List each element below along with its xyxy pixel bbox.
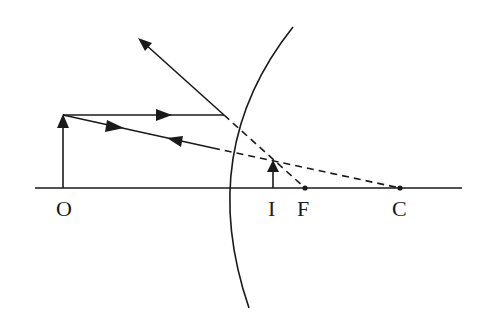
ray-direction-arrow-icon <box>105 120 124 132</box>
label-image: I <box>268 198 275 220</box>
diagram-canvas <box>0 0 477 328</box>
ray-diagram: O I F C <box>0 0 477 328</box>
label-focus: F <box>297 198 309 220</box>
focus-point <box>302 185 307 190</box>
ray-toward-center <box>63 115 213 148</box>
ray-parallel-reflected <box>145 44 224 115</box>
virtual-extension-to-center <box>213 148 400 188</box>
center-point <box>397 185 402 190</box>
label-center: C <box>392 198 407 220</box>
virtual-extension-to-focus <box>224 115 305 188</box>
convex-mirror <box>230 27 293 308</box>
ray-direction-arrow-icon <box>156 109 172 121</box>
label-object: O <box>56 198 72 220</box>
